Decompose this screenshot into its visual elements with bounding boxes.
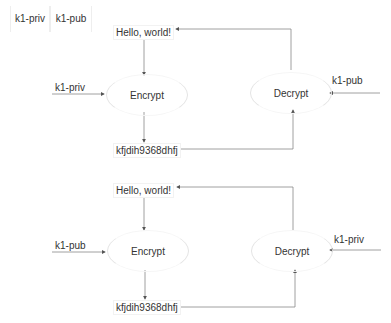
- encrypt-process[interactable]: Encrypt: [106, 74, 188, 116]
- decrypt-process[interactable]: Decrypt: [251, 230, 333, 272]
- decrypt-process[interactable]: Decrypt: [250, 72, 332, 114]
- encrypt-key-label: k1-pub: [55, 240, 86, 251]
- ciphertext-node[interactable]: kfjdih9368dhfj: [113, 300, 181, 315]
- encrypt-label: Encrypt: [131, 246, 165, 257]
- encrypt-process[interactable]: Encrypt: [107, 230, 189, 272]
- plaintext-node[interactable]: Hello, world!: [113, 183, 174, 198]
- decrypt-key-label: k1-pub: [332, 75, 363, 86]
- decrypt-label: Decrypt: [275, 246, 309, 257]
- decrypt-key-label: k1-priv: [334, 234, 364, 245]
- connector-lines: [0, 0, 391, 323]
- decrypt-label: Decrypt: [274, 88, 308, 99]
- ciphertext-node[interactable]: kfjdih9368dhfj: [113, 143, 181, 158]
- encrypt-label: Encrypt: [130, 90, 164, 101]
- plaintext-node[interactable]: Hello, world!: [113, 25, 174, 40]
- encrypt-key-label: k1-priv: [55, 82, 85, 93]
